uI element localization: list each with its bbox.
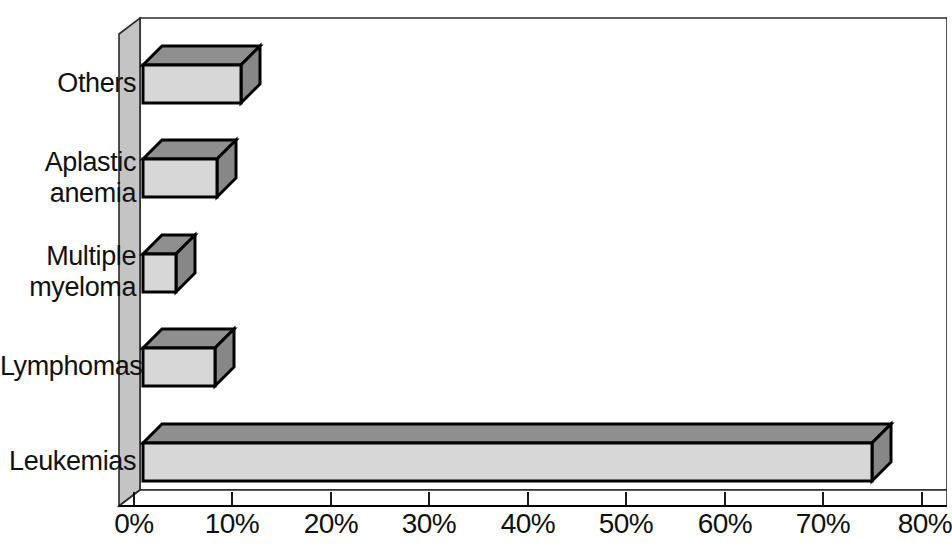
bar-lymphomas[interactable] — [143, 329, 234, 386]
x-tick-label-60: 60% — [698, 508, 753, 540]
category-label-lymphomas: Lymphomas — [0, 351, 136, 382]
x-tick-label-80: 80% — [898, 508, 952, 540]
x-tick-label-0: 0% — [114, 508, 153, 540]
category-label-multiple-myeloma: Multiple myeloma — [0, 241, 136, 303]
bar-aplastic-anemia-front — [143, 159, 217, 197]
bar-others-front — [143, 65, 241, 103]
bar-aplastic-anemia[interactable] — [143, 140, 236, 197]
x-tick-label-10: 10% — [205, 508, 260, 540]
x-tick-label-30: 30% — [402, 508, 457, 540]
bar-multiple-myeloma-front — [143, 254, 176, 292]
x-tick-label-40: 40% — [501, 508, 556, 540]
x-tick-label-20: 20% — [304, 508, 359, 540]
bar-leukemias-front — [143, 443, 872, 481]
category-label-leukemias: Leukemias — [0, 446, 136, 477]
back-wall — [140, 18, 947, 490]
x-tick-label-70: 70% — [796, 508, 851, 540]
x-tick-label-50: 50% — [599, 508, 654, 540]
bar-leukemias-top — [143, 424, 891, 443]
category-label-aplastic-anemia: Aplastic anemia — [0, 147, 136, 209]
bar-lymphomas-front — [143, 348, 215, 386]
bar-leukemias[interactable] — [143, 424, 891, 481]
bar-others[interactable] — [143, 46, 260, 103]
category-label-others: Others — [0, 68, 136, 99]
